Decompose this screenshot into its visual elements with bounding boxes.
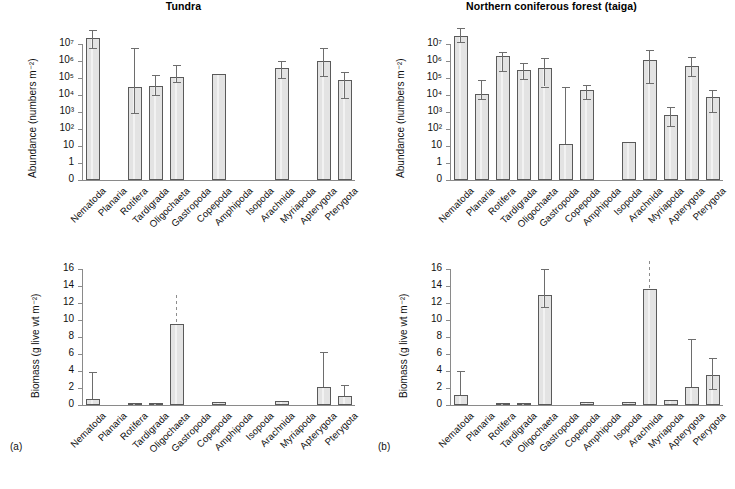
bar [212, 74, 226, 180]
bar [454, 395, 468, 405]
error-cap-upper [499, 52, 507, 53]
bar [580, 402, 594, 405]
y-tick-mark [78, 337, 82, 338]
bar-highlight [280, 69, 282, 179]
y-tick-label: 10² [402, 123, 442, 133]
bar-highlight [543, 296, 545, 405]
y-tick-mark [78, 129, 82, 130]
error-bar [92, 372, 93, 399]
y-tick-mark [78, 286, 82, 287]
error-cap-upper [131, 48, 139, 49]
plot-area-taiga-biomass: 0246810121416NematodaPlanariaRotiferaTar… [450, 269, 723, 405]
bar-highlight [564, 145, 566, 179]
y-tick-label: 0 [402, 174, 442, 184]
y-tick-label: 6 [34, 348, 74, 358]
error-cap-lower [541, 87, 549, 88]
error-cap-lower [173, 82, 181, 83]
y-tick-mark [78, 163, 82, 164]
bar [580, 90, 594, 180]
bar [559, 144, 573, 180]
y-tick-label: 10 [402, 140, 442, 150]
bar-highlight [648, 290, 650, 404]
bar-highlight [585, 91, 587, 179]
error-bar [344, 385, 345, 395]
error-cap-upper [583, 85, 591, 86]
bar-highlight [175, 78, 177, 179]
y-tick-label: 1 [34, 157, 74, 167]
figure-root: Tundra Abundance (numbers m⁻²) 011010²10… [0, 0, 735, 489]
error-cap-upper [709, 90, 717, 91]
y-tick-mark [446, 371, 450, 372]
bar-highlight [627, 143, 629, 179]
bar [685, 387, 699, 405]
y-tick-mark [446, 146, 450, 147]
y-tick-label: 0 [34, 399, 74, 409]
bar [622, 402, 636, 405]
panel-letter-a: (a) [10, 441, 22, 452]
bar [212, 402, 226, 405]
bar-highlight [154, 87, 156, 179]
bar-highlight [522, 71, 524, 180]
error-bar [691, 339, 692, 387]
y-tick-mark [78, 44, 82, 45]
bar-highlight [459, 37, 461, 179]
error-bar [712, 358, 713, 389]
y-tick-label: 10⁴ [402, 89, 442, 99]
panel-letter-b: (b) [378, 441, 390, 452]
y-tick-label: 10 [34, 140, 74, 150]
bar [170, 324, 184, 405]
error-cap-upper [152, 75, 160, 76]
y-tick-label: 10 [34, 314, 74, 324]
y-tick-label: 8 [402, 331, 442, 341]
y-tick-label: 10 [402, 314, 442, 324]
y-tick-label: 10⁵ [402, 72, 442, 82]
y-tick-label: 2 [34, 382, 74, 392]
error-cap-lower [646, 83, 654, 84]
bar [496, 403, 510, 405]
bar-highlight [322, 62, 324, 179]
bar [338, 396, 352, 405]
error-cap-lower [152, 95, 160, 96]
error-cap-upper [709, 358, 717, 359]
bar-highlight [175, 325, 177, 404]
error-bar [176, 65, 177, 82]
error-cap-upper [89, 372, 97, 373]
y-tick-mark [78, 146, 82, 147]
error-bar [670, 107, 671, 126]
error-cap-upper [457, 28, 465, 29]
bar [275, 68, 289, 180]
plot-area-tundra-biomass: 0246810121416NematodaPlanariaRotiferaTar… [82, 269, 355, 405]
y-axis-line [450, 44, 451, 180]
bar [170, 77, 184, 180]
error-bar [155, 75, 156, 95]
bar [517, 70, 531, 181]
y-tick-label: 1 [402, 157, 442, 167]
panel-tundra-biomass: Biomass (g live wt m⁻²) 0246810121416Nem… [0, 245, 367, 489]
y-tick-mark [446, 286, 450, 287]
error-bar [565, 87, 566, 144]
panel-taiga-abundance: Northern coniferous forest (taiga) Abund… [368, 0, 735, 245]
y-tick-mark [446, 61, 450, 62]
bar [128, 403, 142, 405]
bar-highlight [669, 401, 671, 404]
y-tick-label: 10⁵ [34, 72, 74, 82]
error-cap-lower [520, 79, 528, 80]
y-tick-mark [446, 337, 450, 338]
error-cap-lower [341, 98, 349, 99]
y-tick-label: 10² [34, 123, 74, 133]
error-cap-upper [457, 371, 465, 372]
y-tick-label: 8 [34, 331, 74, 341]
error-cap-lower [709, 389, 717, 390]
y-tick-mark [446, 320, 450, 321]
error-cap-upper [278, 61, 286, 62]
error-cap-upper [646, 50, 654, 51]
error-cap-lower [499, 71, 507, 72]
x-axis-line [82, 180, 355, 181]
y-tick-label: 14 [402, 280, 442, 290]
bar-highlight [217, 75, 219, 179]
y-tick-mark [78, 354, 82, 355]
y-tick-mark [446, 112, 450, 113]
error-cap-upper [541, 269, 549, 270]
y-tick-mark [446, 78, 450, 79]
y-tick-label: 16 [34, 263, 74, 273]
